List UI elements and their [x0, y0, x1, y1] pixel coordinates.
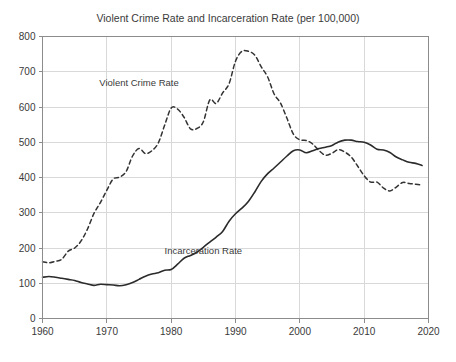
x-tick-label: 1970 — [96, 326, 119, 337]
chart-background — [0, 0, 456, 362]
y-tick-label: 500 — [19, 137, 36, 148]
x-tick-label: 2020 — [417, 326, 440, 337]
violent-crime-incarceration-chart: Violent Crime Rate and Incarceration Rat… — [0, 0, 456, 362]
y-tick-label: 800 — [19, 31, 36, 42]
y-tick-label: 0 — [30, 313, 36, 324]
chart-canvas: Violent Crime Rate and Incarceration Rat… — [0, 0, 456, 362]
y-tick-label: 100 — [19, 278, 36, 289]
y-tick-label: 200 — [19, 243, 36, 254]
series-label-violent-crime-rate: Violent Crime Rate — [99, 77, 179, 88]
chart-title: Violent Crime Rate and Incarceration Rat… — [96, 12, 359, 24]
y-tick-label: 700 — [19, 66, 36, 77]
series-label-incarceration-rate: Incarceration Rate — [165, 245, 243, 256]
x-tick-label: 2010 — [353, 326, 376, 337]
y-tick-label: 300 — [19, 207, 36, 218]
y-tick-label: 400 — [19, 172, 36, 183]
x-tick-label: 1980 — [160, 326, 183, 337]
y-tick-label: 600 — [19, 102, 36, 113]
x-tick-label: 1960 — [31, 326, 54, 337]
x-tick-label: 2000 — [289, 326, 312, 337]
x-tick-label: 1990 — [224, 326, 247, 337]
